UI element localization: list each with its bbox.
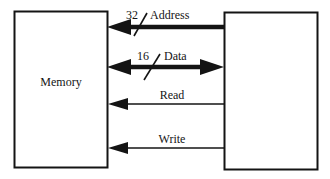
signal-address[interactable]: 32 Address: [107, 8, 224, 36]
signal-data-arrowhead-left: [107, 59, 131, 75]
signal-read-label: Read: [160, 88, 185, 102]
signal-data[interactable]: 16 Data: [107, 49, 224, 80]
memory-interface-diagram: Memory 32 Address 1: [0, 0, 330, 179]
signal-data-arrowhead-right: [200, 59, 224, 75]
signal-write[interactable]: Write: [108, 132, 224, 154]
signal-address-label: Address: [150, 8, 190, 22]
signal-data-width-label: 16: [137, 49, 149, 63]
diagram-canvas: Memory 32 Address 1: [0, 0, 330, 179]
block-processor[interactable]: [225, 13, 318, 170]
block-memory[interactable]: [15, 12, 108, 168]
signal-read[interactable]: Read: [108, 88, 224, 110]
signal-data-label: Data: [164, 49, 187, 63]
block-memory-label: Memory: [40, 75, 81, 89]
signal-read-arrowhead-left: [108, 98, 128, 110]
signal-write-label: Write: [159, 132, 186, 146]
signal-address-width-label: 32: [126, 8, 138, 22]
signal-write-arrowhead-left: [108, 142, 128, 154]
